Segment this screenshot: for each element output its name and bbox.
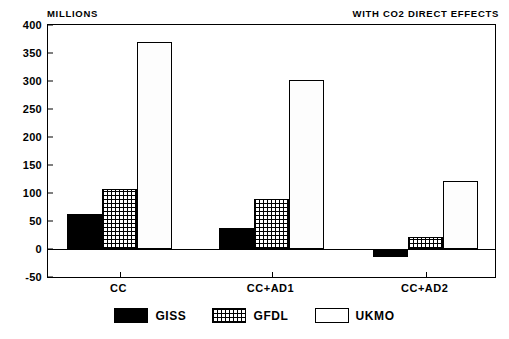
y-axis-tick-mark: [48, 165, 53, 166]
legend-label: UKMO: [356, 309, 395, 323]
x-axis-category-label: CC+AD1: [247, 282, 294, 294]
legend-label: GISS: [155, 309, 186, 323]
legend-item-ukmo[interactable]: UKMO: [315, 308, 395, 323]
legend-item-gfdl[interactable]: GFDL: [212, 308, 288, 323]
bar-ukmo-cc-ad1: [289, 80, 324, 249]
y-axis-tick-label: -50: [25, 271, 42, 283]
legend-swatch-gfdl-icon: [212, 308, 246, 323]
bar-gfdl-cc: [102, 189, 137, 249]
bar-giss-cc: [67, 214, 102, 249]
bar-chart: MILLIONS WITH CO2 DIRECT EFFECTS BASE 19…: [0, 0, 509, 339]
y-axis-tick-mark: [48, 53, 53, 54]
legend-label: GFDL: [253, 309, 288, 323]
y-axis-units-label: MILLIONS: [47, 8, 98, 19]
x-axis-category-label: CC: [110, 282, 127, 294]
y-axis-tick-mark: [48, 137, 53, 138]
y-axis-tick-mark: [48, 221, 53, 222]
y-axis-tick-mark: [48, 193, 53, 194]
y-axis-tick-label: 350: [23, 47, 42, 59]
y-axis-tick-label: 250: [23, 103, 42, 115]
legend-swatch-giss-icon: [114, 308, 148, 323]
y-axis-tick-mark: [48, 25, 53, 26]
bar-giss-cc-ad2: [373, 249, 408, 257]
legend-item-giss[interactable]: GISS: [114, 308, 186, 323]
y-axis-tick-label: 50: [29, 215, 42, 227]
y-axis-tick-mark: [48, 277, 53, 278]
bar-gfdl-cc-ad1: [254, 199, 289, 249]
chart-title: WITH CO2 DIRECT EFFECTS: [353, 8, 499, 19]
x-axis-tick-mark: [426, 272, 427, 277]
x-axis-category-label: CC+AD2: [401, 282, 448, 294]
zero-baseline: [48, 249, 495, 250]
x-axis-tick-mark: [272, 272, 273, 277]
bar-ukmo-cc-ad2: [443, 181, 478, 249]
bar-ukmo-cc: [137, 42, 172, 249]
y-axis-tick-label: 0: [36, 243, 42, 255]
plot-area: 400350300250200150100500-50: [47, 24, 496, 278]
y-axis-tick-label: 100: [23, 187, 42, 199]
plot-inner: 400350300250200150100500-50: [48, 25, 495, 277]
y-axis-tick-mark: [48, 81, 53, 82]
y-axis-tick-label: 150: [23, 159, 42, 171]
bar-giss-cc-ad1: [219, 228, 254, 249]
bar-gfdl-cc-ad2: [408, 237, 443, 249]
y-axis-tick-label: 200: [23, 131, 42, 143]
y-axis-tick-label: 400: [23, 19, 42, 31]
legend-swatch-ukmo-icon: [315, 308, 349, 323]
y-axis-tick-label: 300: [23, 75, 42, 87]
chart-legend: GISSGFDLUKMO: [0, 308, 509, 323]
y-axis-tick-mark: [48, 109, 53, 110]
x-axis-tick-mark: [120, 272, 121, 277]
